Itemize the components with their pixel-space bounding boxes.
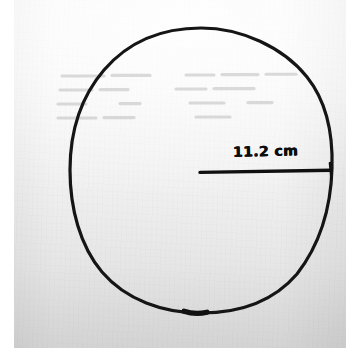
scanned-image: 11.2 cm <box>0 0 364 363</box>
radius-measurement-label: 11.2 cm <box>233 142 298 160</box>
paper-shadow <box>14 0 346 348</box>
